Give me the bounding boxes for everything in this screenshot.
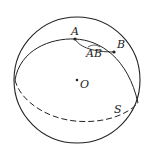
label-o: O — [80, 78, 89, 91]
label-s: S — [114, 103, 122, 116]
center-dot — [76, 79, 79, 82]
label-arc-ab: AB — [85, 47, 102, 60]
point-b-dot — [112, 50, 115, 53]
sphere-diagram: A B AB O S — [0, 0, 153, 154]
label-a: A — [70, 25, 79, 38]
label-b: B — [116, 38, 125, 51]
